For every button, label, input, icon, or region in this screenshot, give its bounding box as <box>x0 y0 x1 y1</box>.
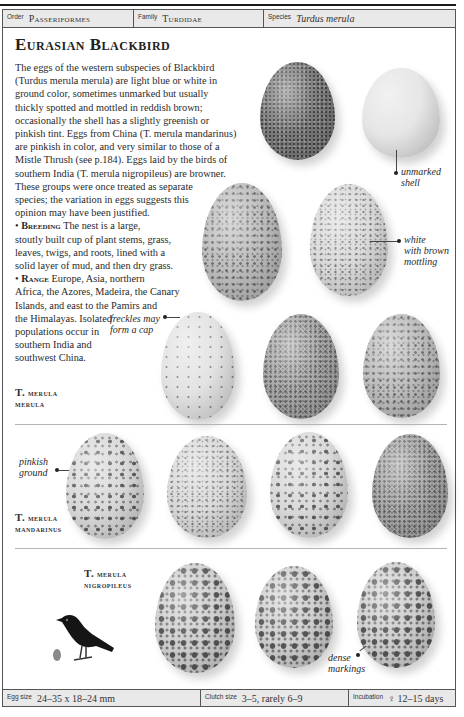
description-line: The eggs of the western subspecies of Bl… <box>15 61 236 74</box>
range-line: Islands, and east to the Pamirs and <box>15 299 236 312</box>
callout-white-mottling: white with brown mottling <box>404 234 449 267</box>
callout-dot <box>394 171 398 175</box>
egg-data-footer: Egg size 24–35 x 18–24 mm Clutch size 3–… <box>3 689 455 706</box>
subspecies-label-mandarinus: T. merula mandarinus <box>15 512 62 535</box>
family-value: Turdidae <box>162 13 202 24</box>
incubation-cell: Incubation ♀ 12–15 days <box>349 690 455 706</box>
egg-size-icon <box>53 649 61 661</box>
range-line: • Range Europe, Asia, northern <box>15 272 236 285</box>
incubation-value: 12–15 days <box>398 693 444 704</box>
callout-pinkish-ground: pinkish ground <box>19 456 48 478</box>
description-line: pinkish tint. Eggs from China (T. merula… <box>15 127 236 140</box>
breeding-heading: Breeding <box>21 220 61 231</box>
clutch-size-label: Clutch size <box>205 693 237 700</box>
callout-dot <box>356 653 360 657</box>
section-divider <box>15 548 447 549</box>
description-line: occasionally the shell has a slightly gr… <box>15 114 236 127</box>
egg-size-cell: Egg size 24–35 x 18–24 mm <box>3 690 201 706</box>
description-line: are pinkish in color, and very similar t… <box>15 140 236 153</box>
section-divider <box>15 424 447 425</box>
description-line: southern India (T. merula nigropileus) a… <box>15 167 236 180</box>
classification-header: Order Passeriformes Family Turdidae Spec… <box>3 10 455 28</box>
female-icon: ♀ <box>388 693 396 704</box>
subspecies-label-merula: T. merula merula <box>15 387 58 410</box>
egg-size-value: 24–35 x 18–24 mm <box>37 693 115 704</box>
subspecies-label-nigropileus: T. merula nigropileus <box>84 568 132 591</box>
range-line: Africa, the Azores, Madeira, the Canary <box>15 285 236 298</box>
callout-unmarked-shell: unmarked shell <box>401 166 441 188</box>
description-line: (Turdus merula merula) are light blue or… <box>15 74 236 87</box>
top-rule <box>0 4 456 6</box>
description-line: opinion may have been justified. <box>15 206 236 219</box>
species-value: Turdus merula <box>296 13 354 24</box>
callout-freckles-cap: freckles may form a cap <box>110 313 160 335</box>
incubation-label: Incubation <box>353 693 383 700</box>
clutch-size-cell: Clutch size 3–5, rarely 6–9 <box>201 690 349 706</box>
order-value: Passeriformes <box>29 13 91 24</box>
clutch-size-value: 3–5, rarely 6–9 <box>242 693 303 704</box>
species-cell: Species Turdus merula <box>264 10 455 27</box>
species-label: Species <box>268 13 291 20</box>
description-line: species; the variation in eggs suggests … <box>15 193 236 206</box>
description-line: thickly spotted and mottled in reddish b… <box>15 101 236 114</box>
family-cell: Family Turdidae <box>134 10 264 27</box>
order-label: Order <box>7 13 24 20</box>
page-title: Eurasian Blackbird <box>15 35 170 55</box>
description-line: ground color, sometimes unmarked but usu… <box>15 87 236 100</box>
egg-size-label: Egg size <box>7 693 32 700</box>
blackbird-icon <box>52 612 122 670</box>
callout-dot <box>397 239 401 243</box>
description-line: Mistle Thrush (see p.184). Eggs laid by … <box>15 153 236 166</box>
order-cell: Order Passeriformes <box>3 10 134 27</box>
family-label: Family <box>138 13 157 20</box>
range-heading: Range <box>21 273 49 284</box>
description-line: These groups were once treated as separa… <box>15 180 236 193</box>
